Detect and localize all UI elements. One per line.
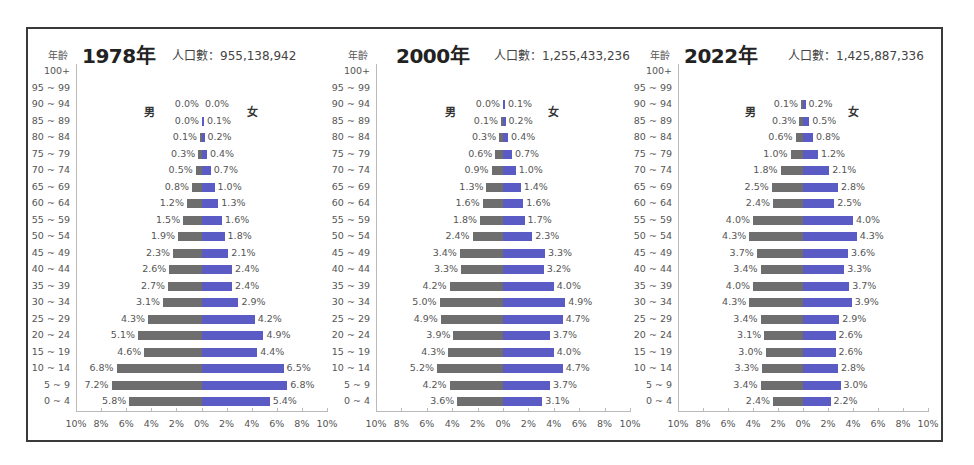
male-bar <box>461 265 503 274</box>
male-bar <box>450 282 503 291</box>
male-value-label: 3.3% <box>418 263 458 274</box>
female-bar <box>503 331 550 340</box>
female-bar <box>803 298 852 307</box>
male-value-label: 1.5% <box>140 214 180 225</box>
female-bar <box>803 397 831 406</box>
female-value-label: 6.8% <box>290 379 314 390</box>
male-value-label: 5.8% <box>86 395 126 406</box>
male-value-label: 3.4% <box>417 247 457 258</box>
female-bar <box>803 216 853 225</box>
male-bar <box>148 315 202 324</box>
age-group-label: 20 ~ 24 <box>628 329 672 340</box>
age-group-label: 30 ~ 34 <box>628 296 672 307</box>
male-bar <box>183 216 202 225</box>
male-value-label: 4.2% <box>407 280 447 291</box>
male-value-label: 1.3% <box>443 181 483 192</box>
panel-title: 2022年 <box>684 40 757 69</box>
female-label: 女 <box>548 103 559 119</box>
age-group-label: 95 ~ 99 <box>326 82 370 93</box>
age-group-label: 35 ~ 39 <box>26 280 70 291</box>
male-bar <box>163 298 202 307</box>
female-value-label: 1.2% <box>821 148 845 159</box>
age-group-label: 85 ~ 89 <box>326 115 370 126</box>
female-value-label: 4.9% <box>266 329 290 340</box>
female-value-label: 2.4% <box>235 280 259 291</box>
age-group-label: 45 ~ 49 <box>628 247 672 258</box>
female-bar <box>202 265 232 274</box>
population-label: 人口數：1,255,433,236 <box>494 46 630 63</box>
female-value-label: 0.5% <box>812 115 836 126</box>
x-tick <box>803 408 804 412</box>
age-group-label: 10 ~ 14 <box>326 362 370 373</box>
age-group-label: 30 ~ 34 <box>26 296 70 307</box>
age-group-label: 50 ~ 54 <box>26 230 70 241</box>
female-value-label: 2.8% <box>841 362 865 373</box>
female-bar <box>803 166 829 175</box>
male-bar <box>480 216 503 225</box>
female-value-label: 2.2% <box>834 395 858 406</box>
female-value-label: 3.0% <box>844 379 868 390</box>
male-bar <box>169 265 202 274</box>
male-bar <box>192 183 202 192</box>
male-bar <box>450 381 503 390</box>
female-bar <box>503 199 523 208</box>
female-value-label: 2.5% <box>837 197 861 208</box>
age-group-label: 45 ~ 49 <box>26 247 70 258</box>
age-group-label: 90 ~ 94 <box>628 98 672 109</box>
x-tick <box>728 408 729 412</box>
male-value-label: 3.1% <box>721 329 761 340</box>
age-group-label: 100+ <box>26 65 70 76</box>
male-bar <box>457 397 503 406</box>
age-group-label: 15 ~ 19 <box>26 346 70 357</box>
x-tick <box>678 408 679 412</box>
age-group-label: 50 ~ 54 <box>628 230 672 241</box>
male-value-label: 3.4% <box>718 379 758 390</box>
female-value-label: 5.4% <box>273 395 297 406</box>
male-value-label: 3.6% <box>414 395 454 406</box>
female-bar <box>803 364 838 373</box>
male-value-label: 7.2% <box>69 379 109 390</box>
female-bar <box>503 348 554 357</box>
age-group-label: 40 ~ 44 <box>326 263 370 274</box>
age-group-label: 60 ~ 64 <box>326 197 370 208</box>
age-group-label: 25 ~ 29 <box>326 313 370 324</box>
female-bar <box>803 265 844 274</box>
age-group-label: 60 ~ 64 <box>628 197 672 208</box>
x-tick <box>101 408 102 412</box>
female-value-label: 2.4% <box>235 263 259 274</box>
female-bar <box>803 381 841 390</box>
age-group-label: 65 ~ 69 <box>326 181 370 192</box>
female-bar <box>803 100 806 109</box>
age-group-label: 25 ~ 29 <box>628 313 672 324</box>
female-value-label: 0.0% <box>205 98 229 109</box>
female-bar <box>202 298 238 307</box>
male-bar <box>473 232 503 241</box>
age-group-label: 30 ~ 34 <box>326 296 370 307</box>
male-value-label: 0.1% <box>157 131 197 142</box>
age-group-label: 20 ~ 24 <box>326 329 370 340</box>
age-group-label: 80 ~ 84 <box>326 131 370 142</box>
male-bar <box>749 232 803 241</box>
x-tick <box>703 408 704 412</box>
female-value-label: 3.3% <box>847 263 871 274</box>
male-bar <box>761 265 804 274</box>
female-bar <box>803 133 813 142</box>
male-value-label: 4.0% <box>710 214 750 225</box>
age-group-label: 55 ~ 59 <box>628 214 672 225</box>
x-tick <box>828 408 829 412</box>
female-bar <box>202 348 257 357</box>
female-bar <box>202 331 263 340</box>
male-value-label: 5.1% <box>95 329 135 340</box>
x-tick <box>202 408 203 412</box>
x-tick <box>928 408 929 412</box>
x-tick <box>427 408 428 412</box>
male-bar <box>486 183 503 192</box>
age-axis-label: 年齡 <box>348 47 368 62</box>
x-tick <box>478 408 479 412</box>
x-tick <box>302 408 303 412</box>
female-value-label: 0.1% <box>508 98 532 109</box>
female-value-label: 4.7% <box>566 362 590 373</box>
age-group-label: 20 ~ 24 <box>26 329 70 340</box>
age-group-label: 85 ~ 89 <box>628 115 672 126</box>
male-value-label: 0.0% <box>159 115 199 126</box>
